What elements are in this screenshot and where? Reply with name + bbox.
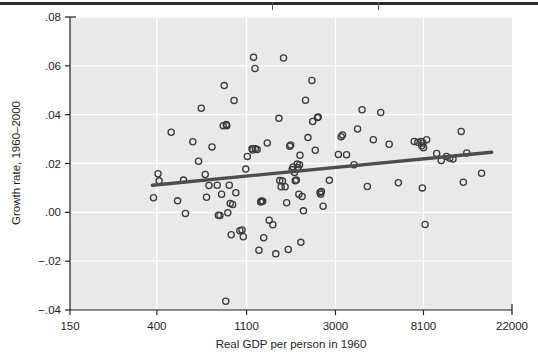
page-rule-tick-right — [378, 2, 379, 10]
x-tick-label: 1100 — [234, 320, 259, 332]
x-tick-label: 150 — [60, 320, 79, 332]
y-tick-label: .08 — [45, 11, 61, 23]
x-tick-label: 400 — [147, 320, 166, 332]
page-rule-tick-left — [272, 2, 273, 10]
figure-container: −.04−.02.00.02.04.06.08 1504001100300081… — [0, 0, 538, 362]
scatter-chart: −.04−.02.00.02.04.06.08 1504001100300081… — [0, 0, 538, 362]
y-tick-label: −.02 — [38, 255, 61, 267]
page-top-rule — [0, 2, 538, 5]
y-axis-ticks — [65, 17, 70, 310]
y-tick-label: −.04 — [38, 304, 61, 316]
x-tick-label: 3000 — [323, 320, 349, 332]
y-axis-title: Growth rate, 1960–2000 — [10, 101, 22, 225]
x-tick-label: 22000 — [496, 320, 528, 332]
x-axis-ticks — [70, 310, 512, 315]
y-tick-label: .00 — [45, 206, 61, 218]
y-tick-label: .04 — [45, 109, 62, 121]
y-tick-label: .06 — [45, 60, 61, 72]
x-axis-title: Real GDP per person in 1960 — [216, 338, 367, 350]
y-axis-tick-labels: −.04−.02.00.02.04.06.08 — [38, 11, 61, 316]
x-tick-label: 8100 — [411, 320, 437, 332]
x-axis-tick-labels: 15040011003000810022000 — [60, 320, 528, 332]
y-tick-label: .02 — [45, 158, 61, 170]
